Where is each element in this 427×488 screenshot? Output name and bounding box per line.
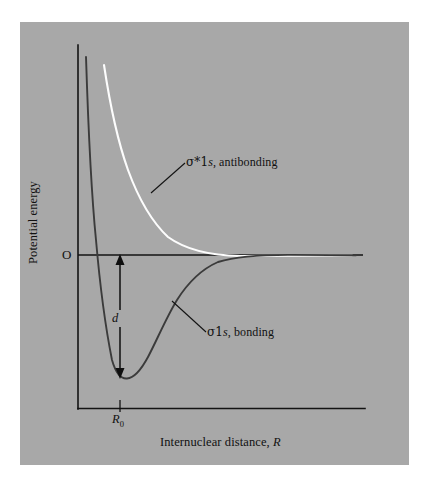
zero-origin-label: O <box>62 247 72 263</box>
x-axis-label-symbol: R <box>273 435 281 449</box>
antibonding-leader-line <box>151 163 185 193</box>
bonding-curve-label: σ1s, bonding <box>207 325 274 340</box>
well-depth-label: d <box>112 311 118 326</box>
x-axis-label: Internuclear distance, R <box>160 435 281 450</box>
x-axis-tick-label-r0: R0 <box>112 412 124 429</box>
antibonding-curve-label: σ*1s, antibonding <box>186 155 278 170</box>
x-axis-label-text: Internuclear distance, <box>160 435 273 449</box>
potential-energy-plot <box>0 0 427 488</box>
tick-label-symbol: R <box>112 412 120 426</box>
bonding-leader-line <box>172 301 206 332</box>
antibonding-sigma-symbol: σ*1 <box>186 155 208 169</box>
bonding-sigma-symbol: σ1 <box>207 325 223 339</box>
figure-root: Potential energy O Internuclear distance… <box>0 0 427 488</box>
antibonding-label-text: , antibonding <box>213 155 278 169</box>
bonding-label-text: , bonding <box>228 325 274 339</box>
y-axis-label: Potential energy <box>26 163 41 283</box>
tick-label-subscript: 0 <box>120 419 124 429</box>
